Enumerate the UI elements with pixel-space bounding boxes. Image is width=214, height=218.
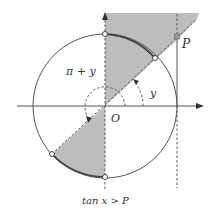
tangent-diagram: P π + y y O tan x > P (0, 0, 214, 218)
x-axis-arrow-icon (196, 103, 204, 109)
point-top (103, 32, 108, 37)
angle-arc-y-arrow-icon (133, 79, 139, 85)
point-bottom (103, 175, 108, 180)
label-p: P (181, 37, 191, 51)
shaded-region-lower (52, 106, 105, 177)
label-pi-plus-y: π + y (65, 65, 96, 78)
label-origin: O (111, 112, 120, 125)
point-angle-y (153, 56, 158, 61)
caption: tan x > P (82, 195, 129, 206)
point-angle-pi-plus-y (50, 152, 55, 157)
label-y: y (149, 87, 157, 100)
point-p-marker (175, 34, 180, 39)
angle-arc-y (134, 81, 143, 106)
